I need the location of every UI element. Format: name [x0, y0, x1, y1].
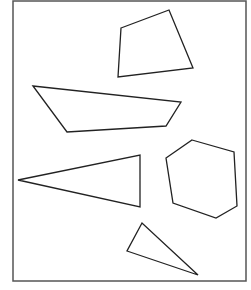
- shapes-figure: [0, 0, 251, 290]
- triangle-bottom-shape: [127, 223, 198, 275]
- quadrilateral-top-shape: [118, 10, 193, 77]
- figure-frame: [13, 1, 246, 281]
- triangle-left-shape: [18, 155, 140, 207]
- diagram-canvas: [0, 0, 251, 290]
- trapezoid-middle-shape: [33, 86, 181, 132]
- hexagon-right-shape: [166, 140, 237, 218]
